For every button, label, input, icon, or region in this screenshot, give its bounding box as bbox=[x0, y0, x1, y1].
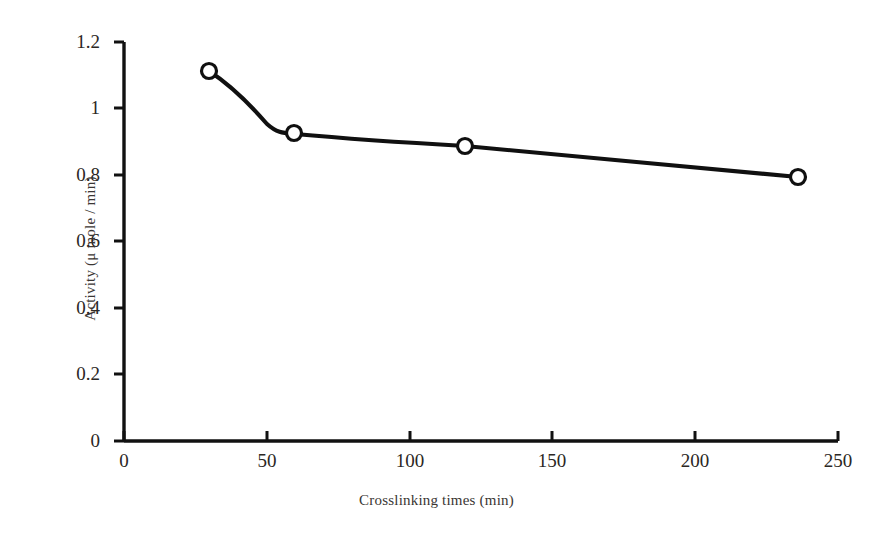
x-tick-label-200: 200 bbox=[665, 450, 725, 472]
data-point-1 bbox=[202, 64, 217, 79]
x-axis-title: Crosslinking times (min) bbox=[0, 492, 873, 509]
y-tick-label-1.2: 1.2 bbox=[40, 31, 100, 53]
x-tick-label-100: 100 bbox=[380, 450, 440, 472]
x-tick-label-0: 0 bbox=[94, 450, 154, 472]
data-point-4 bbox=[791, 170, 806, 185]
y-axis-title: Activity (μ mole / min) bbox=[82, 99, 99, 399]
data-point-3 bbox=[458, 139, 473, 154]
chart-figure: 1.2 1 0.8 0.6 0.4 0.2 0 0 50 100 150 200… bbox=[0, 0, 873, 535]
y-tick-label-0: 0 bbox=[40, 430, 100, 452]
x-tick-label-150: 150 bbox=[522, 450, 582, 472]
data-markers bbox=[202, 64, 806, 185]
x-tick-label-50: 50 bbox=[237, 450, 297, 472]
x-tick-label-250: 250 bbox=[808, 450, 868, 472]
data-point-2 bbox=[287, 126, 302, 141]
data-line-series-activity bbox=[209, 71, 798, 177]
